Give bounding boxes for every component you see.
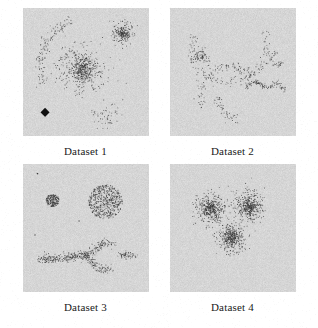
caption-dataset-4: Dataset 4 (211, 301, 254, 314)
scatter-canvas-dataset-2 (170, 8, 296, 136)
panel-dataset-3: Dataset 3 (12, 164, 159, 320)
panel-dataset-2: Dataset 2 (159, 8, 306, 164)
panel-grid: Dataset 1 Dataset 2 Dataset 3 Dataset 4 (0, 0, 318, 328)
caption-dataset-1: Dataset 1 (64, 145, 107, 158)
caption-dataset-3: Dataset 3 (64, 301, 107, 314)
scatter-canvas-dataset-4 (170, 164, 296, 292)
plot-area-dataset-1 (23, 8, 149, 136)
scatter-canvas-dataset-1 (23, 8, 149, 136)
plot-area-dataset-4 (170, 164, 296, 292)
plot-area-dataset-2 (170, 8, 296, 136)
figure-container: Dataset 1 Dataset 2 Dataset 3 Dataset 4 (0, 0, 318, 328)
scatter-canvas-dataset-3 (23, 164, 149, 292)
caption-dataset-2: Dataset 2 (211, 145, 254, 158)
plot-area-dataset-3 (23, 164, 149, 292)
panel-dataset-1: Dataset 1 (12, 8, 159, 164)
panel-dataset-4: Dataset 4 (159, 164, 306, 320)
